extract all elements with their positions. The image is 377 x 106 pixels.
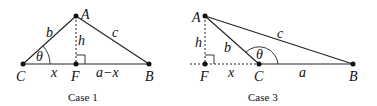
point-A [74, 14, 79, 19]
caption-case1: Case 1 [68, 91, 98, 103]
label-C: C [16, 69, 26, 84]
label-theta: θ [36, 49, 43, 64]
point-C [257, 62, 262, 67]
label-B: B [145, 69, 154, 84]
point-B [147, 62, 152, 67]
case3-figure: A F C B h b c x a θ Case 3 [190, 10, 358, 103]
label-x: x [50, 65, 58, 80]
label-B: B [349, 69, 358, 84]
point-A [203, 14, 208, 19]
angle-arc [43, 46, 50, 64]
point-B [351, 62, 356, 67]
label-x: x [227, 65, 235, 80]
point-C [21, 62, 26, 67]
point-F [203, 62, 208, 67]
point-F [74, 62, 79, 67]
label-F: F [70, 69, 80, 84]
label-a: a [299, 65, 306, 80]
label-A: A [191, 10, 201, 25]
side-c [76, 16, 149, 64]
label-h: h [78, 33, 85, 48]
label-b: b [224, 40, 231, 55]
label-h: h [195, 35, 202, 50]
label-theta: θ [256, 47, 263, 62]
label-b: b [46, 25, 53, 40]
label-C: C [254, 69, 264, 84]
label-c: c [112, 25, 119, 40]
label-F: F [199, 69, 209, 84]
label-a-minus-x: a−x [96, 65, 119, 80]
law-of-cosines-diagram: A C F B b c h x a−x θ Case 1 A F C B h b… [0, 0, 377, 106]
label-c: c [277, 26, 284, 41]
case1-figure: A C F B b c h x a−x θ Case 1 [16, 7, 154, 103]
side-b [205, 16, 259, 64]
label-A: A [80, 7, 90, 22]
caption-case3: Case 3 [248, 91, 278, 103]
